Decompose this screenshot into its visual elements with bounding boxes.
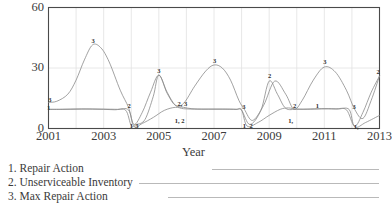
x-tick-label: 2013 — [367, 129, 392, 143]
series-point-label: 1, — [354, 123, 359, 130]
x-tick-label: 2003 — [91, 129, 116, 143]
legend-label: 1. Repair Action — [8, 162, 84, 175]
series-point-label: 2 — [268, 72, 271, 79]
series-point-label: 1, 2 — [175, 117, 185, 124]
x-tick-label: 2009 — [257, 129, 282, 143]
legend-item-unserviceable-inventory: 2. Unserviceable Inventory — [8, 176, 381, 189]
series-point-label: 3 — [352, 103, 355, 110]
legend-item-repair-action: 1. Repair Action — [8, 162, 381, 175]
series-point-label: 2, 3 — [177, 100, 187, 107]
legend-rule-line — [168, 197, 379, 198]
series-point-label: 2 — [127, 102, 130, 109]
chart-plot-svg — [0, 0, 387, 140]
y-tick-label: 30 — [10, 61, 44, 73]
series-point-label: 3 — [213, 56, 216, 63]
x-axis-title: Year — [0, 145, 387, 160]
legend-label: 2. Unserviceable Inventory — [8, 176, 133, 189]
legend: 1. Repair Action 2. Unserviceable Invent… — [0, 162, 387, 204]
series-point-label: 1 — [316, 102, 319, 109]
series-point-label: 1 — [47, 104, 50, 111]
x-tick-label: 2005 — [146, 129, 171, 143]
legend-rule-line — [212, 169, 379, 170]
legend-item-max-repair-action: 3. Max Repair Action — [8, 190, 381, 203]
series-point-label: 2 — [376, 68, 379, 75]
series-point-label: 2 — [293, 102, 296, 109]
series-point-label: 1 — [243, 121, 246, 128]
x-tick-label: 2001 — [36, 129, 61, 143]
series-point-label: 2 — [250, 121, 253, 128]
series-point-label: 3 — [92, 36, 95, 43]
series-point-label: 3 — [157, 67, 160, 74]
y-tick-label: 60 — [10, 1, 44, 13]
series-point-label: 3 — [242, 103, 245, 110]
x-tick-label: 2011 — [312, 129, 337, 143]
series-point-label: 1 — [130, 121, 133, 128]
series-point-label: 3 — [135, 121, 138, 128]
y-axis-tick-labels: 03060 — [6, 0, 44, 140]
series-point-label: 3 — [48, 96, 51, 103]
legend-label: 3. Max Repair Action — [8, 190, 108, 203]
x-tick-label: 2007 — [202, 129, 227, 143]
series-point-label: 1, — [288, 117, 293, 124]
series-point-label: 3 — [323, 57, 326, 64]
chart: 03060 2001200320052007200920112013 31321… — [0, 0, 387, 140]
legend-rule-line — [139, 183, 379, 184]
